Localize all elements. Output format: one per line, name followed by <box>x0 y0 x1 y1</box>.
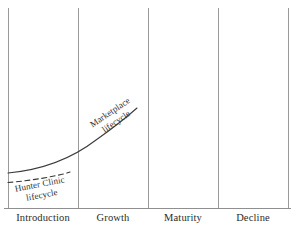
stage-axis-labels: Introduction Growth Maturity Decline <box>8 212 288 223</box>
lifecycle-figure: Marketplace lifecycle Hunter Clinic life… <box>0 0 295 239</box>
lifecycle-chart-svg <box>0 0 295 239</box>
stage-label-maturity: Maturity <box>148 212 218 223</box>
stage-label-growth: Growth <box>78 212 148 223</box>
stage-label-introduction: Introduction <box>8 212 78 223</box>
stage-label-decline: Decline <box>218 212 288 223</box>
